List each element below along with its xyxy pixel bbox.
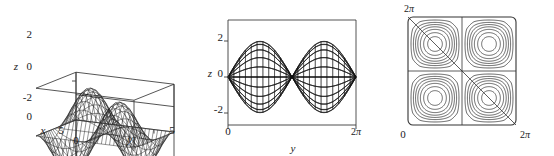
y-tick-5: 5	[169, 124, 175, 136]
x-tick-5: 5	[58, 124, 64, 136]
z-tick-2: 2	[218, 31, 224, 43]
label-bottom-right-2pi: 2π	[520, 129, 531, 140]
z-tick-neg2: -2	[214, 103, 223, 115]
z-tick-0: 0	[218, 67, 224, 79]
panel-surface-3d: 2 0 -2 0 z x 5 0 y 5	[0, 0, 190, 156]
axis-label-z: z	[13, 60, 19, 72]
projected-wireframe	[228, 41, 356, 112]
label-top-left-2pi: 2π	[404, 3, 415, 14]
axis-label-z: z	[207, 67, 213, 79]
y-tick-0: 0	[73, 134, 79, 146]
z-tick-0: 0	[27, 60, 33, 72]
x-tick-0: 0	[225, 125, 231, 137]
axis-label-x: x	[40, 124, 46, 136]
contour-svg: 2π 0 2π	[370, 0, 554, 156]
panel-contour: 2π 0 2π	[370, 0, 554, 156]
axis-label-y: y	[127, 133, 133, 145]
x-tick-2pi: 2π	[351, 126, 362, 137]
z-tick-neg2: -2	[23, 91, 32, 103]
plot-frame	[228, 20, 356, 125]
z-tick-2: 2	[27, 28, 33, 40]
label-bottom-left-0: 0	[400, 128, 406, 140]
axis-label-y: y	[290, 142, 296, 154]
panel-edge-view: 2 0 -2 z 0 2π y	[190, 0, 370, 156]
edge-view-svg: 2 0 -2 z 0 2π y	[190, 0, 370, 156]
z-base-tick-0: 0	[27, 110, 33, 122]
axis-tickmarks	[44, 81, 154, 156]
figure-container: 2 0 -2 0 z x 5 0 y 5 2 0 -2 z 0 2π y	[0, 0, 554, 156]
surface-3d-svg: 2 0 -2 0 z x 5 0 y 5	[0, 0, 190, 156]
